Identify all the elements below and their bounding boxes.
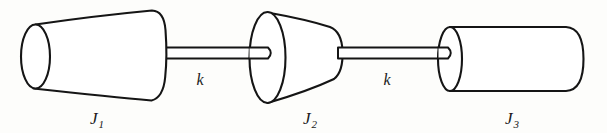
- figure-canvas: J1 J2 J3 k k: [0, 0, 607, 133]
- body-J3-group: [438, 27, 584, 91]
- shaft-1-stub-on-J2: [250, 48, 271, 59]
- body-J1-group: [21, 11, 166, 101]
- shaft-2-bar: [338, 48, 451, 59]
- label-J2: J2: [303, 109, 318, 130]
- label-shaft-2-stiffness: k: [383, 71, 391, 88]
- body-J2-group: [250, 12, 343, 103]
- label-J3-subscript: 3: [513, 118, 520, 130]
- label-shaft-1-stiffness: k: [196, 71, 204, 88]
- body-J1-left-face: [21, 25, 50, 89]
- label-J3: J3: [505, 109, 520, 130]
- shaft-2-stub-on-J3: [439, 48, 451, 59]
- label-J1-subscript: 1: [99, 118, 105, 130]
- label-J2-subscript: 2: [312, 118, 318, 130]
- shaft-2-group: [338, 48, 451, 59]
- body-J3-surface: [450, 27, 584, 91]
- torsional-system-figure: J1 J2 J3 k k: [0, 0, 607, 133]
- label-J1: J1: [90, 109, 104, 130]
- body-J1-surface: [34, 11, 167, 101]
